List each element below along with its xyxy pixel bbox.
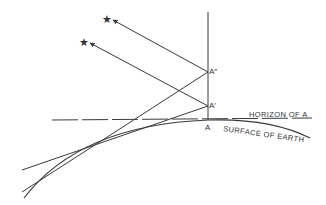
label-horizon: HORIZON OF A <box>249 110 308 119</box>
label-a-double-prime: A″ <box>209 67 217 76</box>
tangent-line-a-prime <box>22 106 208 170</box>
star-lower-icon: ★ <box>79 36 89 48</box>
label-a-prime: A′ <box>209 101 216 110</box>
diagram-canvas: ★ ★ A″ A′ A HORIZON OF A SURFACE OF EART… <box>0 0 326 205</box>
ray-to-lower-star <box>90 43 208 106</box>
label-surface: SURFACE OF EARTH <box>223 124 305 144</box>
label-a: A <box>205 123 211 132</box>
tangent-line-a-double-prime <box>22 72 208 192</box>
star-upper-icon: ★ <box>102 13 112 25</box>
ray-to-upper-star <box>113 20 208 72</box>
